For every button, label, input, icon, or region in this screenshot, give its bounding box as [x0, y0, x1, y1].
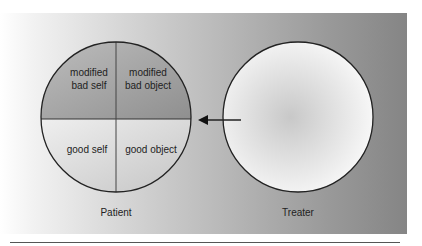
- diagram-canvas: [0, 0, 422, 246]
- treater-label: Treater: [268, 206, 328, 219]
- quadrant-good-object: good object: [118, 143, 184, 156]
- patient-label: Patient: [86, 206, 146, 219]
- quadrant-modified-bad-object: modified bad object: [116, 66, 180, 92]
- treater-circle: [223, 42, 373, 192]
- quadrant-good-self: good self: [58, 143, 116, 156]
- quadrant-modified-bad-self: modified bad self: [62, 66, 116, 92]
- bottom-rule: [10, 242, 400, 243]
